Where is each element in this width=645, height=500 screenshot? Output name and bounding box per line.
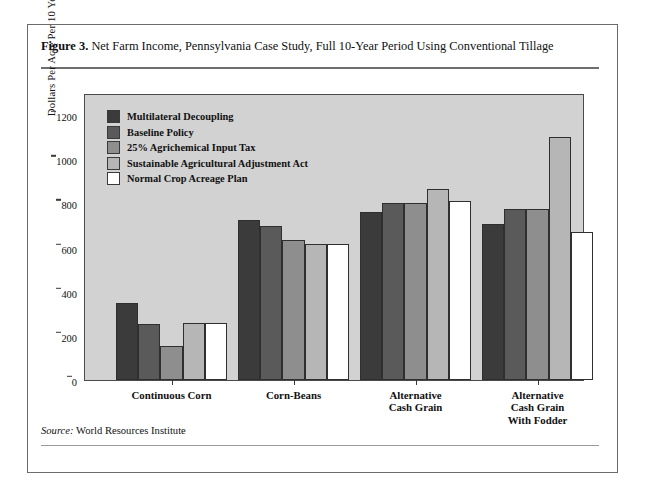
x-axis-tick-mark [294, 380, 295, 385]
source-note: Source: World Resources Institute [41, 425, 186, 436]
bar-group [116, 95, 227, 380]
x-axis-tick-mark [538, 380, 539, 385]
source-label: Source: [41, 425, 74, 436]
x-axis-category-label: AlternativeCash Grain [389, 389, 443, 414]
y-axis-tick-mark [67, 376, 72, 377]
x-axis-category-label-line: Cash Grain [508, 401, 568, 413]
bar [282, 240, 304, 380]
source-text: World Resources Institute [76, 425, 186, 436]
x-axis-category-label: Corn-Beans [266, 389, 321, 401]
y-axis-tick-mark [56, 332, 61, 333]
chart-bars: Continuous CornCorn-BeansAlternativeCash… [85, 95, 583, 380]
bar [482, 224, 504, 380]
figure-caption: Figure 3. Net Farm Income, Pennsylvania … [41, 39, 599, 55]
bar [305, 244, 327, 380]
y-axis-tick-mark [56, 287, 61, 288]
bar [504, 209, 526, 380]
bar [549, 137, 571, 380]
y-axis-tick-label: 0 [72, 377, 85, 388]
x-axis-category-label: Continuous Corn [131, 389, 211, 401]
bar-group [360, 95, 471, 380]
x-axis-category-label-line: Corn-Beans [266, 389, 321, 401]
bar-group [482, 95, 593, 380]
x-axis-category-label-line: Cash Grain [389, 401, 443, 413]
figure-caption-text: Net Farm Income, Pennsylvania Case Study… [91, 39, 553, 53]
bar [449, 201, 471, 380]
bar [205, 323, 227, 380]
bar [260, 226, 282, 380]
x-axis-category-label-line: Continuous Corn [131, 389, 211, 401]
x-axis-category-label-line: Alternative [389, 389, 443, 401]
x-axis-category-label-line: Alternative [508, 389, 568, 401]
figure-frame: Figure 3. Net Farm Income, Pennsylvania … [27, 24, 618, 473]
bar [160, 346, 182, 380]
y-axis-tick-mark [51, 111, 56, 112]
x-axis-tick-mark [172, 380, 173, 385]
bar [526, 209, 548, 380]
bar [116, 303, 138, 380]
caption-divider [41, 67, 599, 69]
bar [183, 323, 205, 380]
bar [327, 244, 349, 380]
bar-group [238, 95, 349, 380]
y-axis-label: Dollars Per Acre Per 10 Years [46, 0, 57, 145]
y-axis-tick-label: 400 [61, 288, 85, 299]
y-axis-tick-label: 1000 [56, 156, 85, 167]
bar [360, 212, 382, 380]
bar [238, 220, 260, 380]
y-axis-tick-mark [56, 243, 61, 244]
bar [571, 232, 593, 380]
y-axis-tick-label: 600 [61, 244, 85, 255]
y-axis-tick-label: 200 [61, 332, 85, 343]
y-axis-tick-mark [51, 155, 56, 156]
y-axis-tick-mark [56, 199, 61, 200]
y-axis-tick-label: 1200 [56, 112, 85, 123]
x-axis-tick-mark [416, 380, 417, 385]
x-axis-category-label: AlternativeCash GrainWith Fodder [508, 389, 568, 426]
source-divider [41, 445, 599, 446]
bar [404, 203, 426, 380]
x-axis-category-label-line: With Fodder [508, 414, 568, 426]
bar [427, 189, 449, 380]
y-axis-tick-label: 800 [61, 200, 85, 211]
bar [138, 324, 160, 380]
bar [382, 203, 404, 380]
chart-plot-area: Dollars Per Acre Per 10 Years 0200400600… [84, 94, 584, 381]
